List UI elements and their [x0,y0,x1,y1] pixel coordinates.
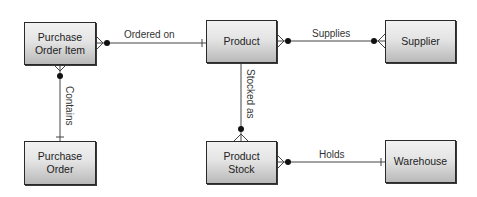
entity-product: Product [206,20,277,63]
entity-label-line2: Stock [228,163,254,175]
entity-label-line1: Product [223,150,259,162]
relationship-label-stocked-as: Stocked as [245,69,256,118]
relationship-label-ordered-on: Ordered on [124,29,175,40]
entity-label: Product [223,35,259,48]
entity-label: Warehouse [394,155,447,168]
entity-label: Product Stock [223,150,259,176]
entity-label: Purchase Order [38,150,82,176]
relationship-label-contains: Contains [64,86,75,125]
entity-label-line1: Purchase [38,150,82,162]
entity-product-stock: Product Stock [206,141,277,184]
optionality-dot-icon [238,126,244,132]
optionality-dot-icon [371,38,377,44]
entity-warehouse: Warehouse [385,140,456,183]
optionality-dot-icon [104,40,110,46]
optionality-dot-icon [57,73,63,79]
relationship-label-holds: Holds [319,149,345,160]
entity-label-line2: Order [47,163,74,175]
optionality-dot-icon [285,159,291,165]
relationship-label-supplies: Supplies [312,28,350,39]
entity-label-line2: Order Item [35,44,85,56]
optionality-dot-icon [285,38,291,44]
entity-purchase-order: Purchase Order [24,141,96,185]
er-diagram: Purchase Order Item Product Supplier Pur… [0,0,477,197]
entity-label: Supplier [401,35,440,48]
entity-purchase-order-item: Purchase Order Item [24,22,96,65]
entity-label-line1: Purchase [38,31,82,43]
entity-label: Purchase Order Item [35,31,85,57]
entity-supplier: Supplier [385,20,456,63]
